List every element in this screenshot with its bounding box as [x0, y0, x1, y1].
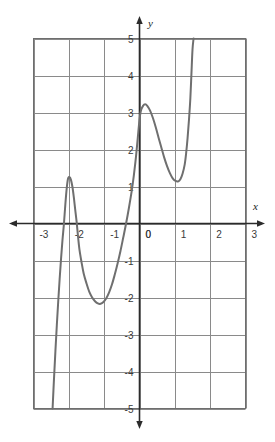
y-tick-label: -5: [125, 404, 134, 415]
y-tick-label: 3: [128, 108, 134, 119]
y-tick-label: -3: [125, 330, 134, 341]
x-tick-label: 2: [216, 229, 222, 240]
y-tick-label: -1: [125, 256, 134, 267]
y-tick-label: -4: [125, 367, 134, 378]
x-tick-label: -1: [110, 229, 119, 240]
x-tick-label: 1: [181, 229, 187, 240]
y-tick-label: 4: [128, 71, 134, 82]
x-axis-label: x: [252, 200, 258, 212]
x-tick-label: -2: [75, 229, 84, 240]
figure-background: [0, 0, 275, 442]
y-tick-label: -2: [125, 293, 134, 304]
y-tick-label: 5: [128, 34, 134, 45]
y-tick-label: 2: [128, 145, 134, 156]
coordinate-plane-figure: -3-2-10123 543210-1-2-3-4-5 x y: [0, 0, 275, 442]
x-tick-label: -3: [40, 229, 49, 240]
x-tick-label: 3: [252, 229, 258, 240]
y-axis-label: y: [147, 17, 153, 29]
origin-label: 0: [146, 229, 152, 240]
graph-svg: -3-2-10123 543210-1-2-3-4-5 x y: [0, 0, 275, 442]
